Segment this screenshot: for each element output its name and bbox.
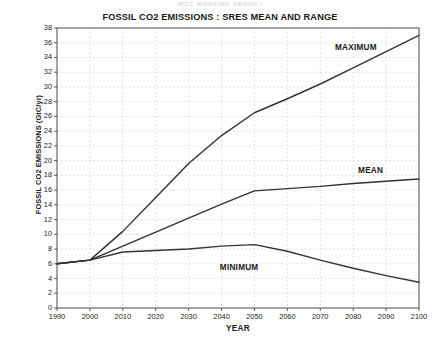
- series-label-maximum: MAXIMUM: [335, 43, 377, 52]
- y-tick-label: 28: [30, 98, 52, 106]
- series-label-minimum: MINIMUM: [220, 263, 259, 272]
- series-label-mean: MEAN: [358, 166, 383, 175]
- y-tick-label: 8: [30, 245, 52, 253]
- y-tick-label: 0: [30, 304, 52, 312]
- y-tick-label: 22: [30, 142, 52, 150]
- y-tick-label: 12: [30, 216, 52, 224]
- y-tick-label: 4: [30, 275, 52, 283]
- y-tick-label: 14: [30, 201, 52, 209]
- y-tick-label: 36: [30, 39, 52, 47]
- y-tick-label: 6: [30, 260, 52, 268]
- y-tick-label: 2: [30, 289, 52, 297]
- series-line-maximum: [57, 35, 419, 263]
- y-tick-label: 16: [30, 186, 52, 194]
- y-tick-label: 24: [30, 127, 52, 135]
- y-tick-label: 30: [30, 83, 52, 91]
- chart-figure: IPCC WORKING GROUP I FOSSIL CO2 EMISSION…: [0, 0, 440, 347]
- y-tick-label: 20: [30, 157, 52, 165]
- y-tick-label: 10: [30, 230, 52, 238]
- y-tick-label: 34: [30, 53, 52, 61]
- y-tick-label: 38: [30, 24, 52, 32]
- series-line-mean: [57, 179, 419, 264]
- y-tick-label: 32: [30, 68, 52, 76]
- y-tick-label: 26: [30, 112, 52, 120]
- y-tick-label: 18: [30, 171, 52, 179]
- x-tick-label: 2100: [399, 313, 439, 321]
